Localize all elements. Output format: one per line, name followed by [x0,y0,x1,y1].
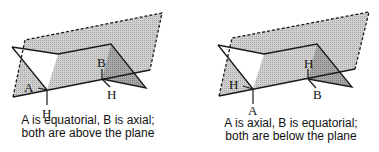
label-b: B [313,87,322,102]
cyclohexane-chair-diagrams: A B H H A is equatorial, B is axial; bot… [0,0,379,152]
right-diagram: H H A B A is axial, B is equatorial; bot… [218,12,369,143]
caption-line-2: both are above the plane [22,126,155,140]
label-b: B [97,55,106,70]
label-h-b: H [107,87,116,102]
label-h-b: H [304,56,313,71]
caption-line-1: A is axial, B is equatorial; [224,116,357,130]
caption-line-2: both are below the plane [225,129,357,143]
caption-line-1: A is equatorial, B is axial; [21,113,154,127]
label-a: A [24,80,34,95]
left-diagram: A B H H A is equatorial, B is axial; bot… [12,13,162,140]
label-h-a: H [229,77,238,92]
